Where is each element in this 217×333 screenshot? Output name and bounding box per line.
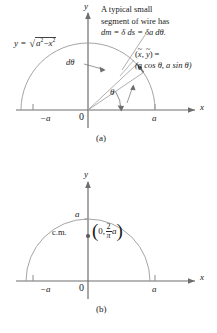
point-coordinate-label: (~x, ~y) = (a cos θ, a sin θ) — [135, 49, 192, 71]
x-tilde: ~x — [138, 49, 142, 60]
radicand-second-exponent: 2 — [52, 37, 55, 43]
center-of-mass-label: c.m. — [52, 228, 67, 237]
x-axis-a — [16, 107, 195, 113]
sqrt-expression: √a2−x2 — [29, 37, 57, 49]
tick-label-a-positive-a: a — [152, 114, 157, 123]
center-of-mass-marker — [86, 234, 90, 238]
tilde-accent-x: ~ — [138, 44, 142, 55]
y-tilde: ~y — [146, 49, 150, 60]
figure-root: y x 0 a −a y = √a2−x2 dθ θ A typical sma… — [0, 0, 217, 333]
annotation-note: A typical small segment of wire has dm =… — [101, 4, 169, 39]
panel-b-graphics — [0, 165, 217, 333]
tick-label-a-positive-b: a — [152, 285, 157, 294]
theta-label: θ — [110, 88, 114, 97]
panel-b: y x 0 a −a a c.m. (0,2πa) (b) — [0, 165, 217, 333]
tick-label-a-negative-a: −a — [40, 114, 51, 123]
x-axis-b — [16, 278, 195, 284]
y-axis-label-a: y — [84, 2, 88, 11]
origin-label-b: 0 — [79, 283, 84, 293]
caption-panel-b: (b) — [96, 305, 107, 314]
annotation-note-line-2: segment of wire has — [101, 16, 169, 28]
coordinate-x-value: 0, — [98, 227, 105, 236]
point-coordinate-line-1: (~x, ~y) = — [135, 49, 192, 60]
dtheta-label: dθ — [66, 58, 74, 67]
point-coordinate-line-2: (a cos θ, a sin θ) — [135, 60, 192, 71]
dtheta-leader-arrowhead — [100, 67, 106, 73]
tick-label-a-yaxis-b: a — [75, 210, 80, 219]
fraction-numerator: 2 — [106, 223, 112, 231]
segment-pointer-arrowhead — [130, 85, 135, 91]
fraction-denominator: π — [106, 231, 112, 240]
curve-equation-label: y = √a2−x2 — [14, 37, 56, 49]
fraction-two-over-pi: 2π — [106, 223, 112, 240]
radius-line-lower — [88, 73, 144, 111]
coordinate-group: (0,2πa) — [92, 223, 123, 240]
coordinate-close-paren: ) — [117, 223, 123, 239]
x-axis-label-a: x — [200, 103, 204, 112]
origin-label-a: 0 — [79, 112, 84, 122]
point-coordinate-close-eq: ) = — [150, 49, 160, 59]
annotation-note-line-1: A typical small — [101, 4, 169, 16]
panel-a: y x 0 a −a y = √a2−x2 dθ θ A typical sma… — [0, 0, 217, 170]
tick-label-a-negative-b: −a — [40, 285, 51, 294]
radicand: a2−x2 — [35, 37, 56, 48]
annotation-note-line-3: dm = δ ds = δa dθ. — [101, 27, 169, 39]
caption-panel-a: (a) — [96, 134, 106, 143]
center-of-mass-coordinate: (0,2πa) — [92, 223, 123, 240]
curve-equation-lhs: y = — [14, 38, 26, 48]
tilde-accent-y: ~ — [146, 44, 150, 55]
y-axis-label-b: y — [84, 170, 88, 179]
x-axis-label-b: x — [200, 273, 204, 282]
